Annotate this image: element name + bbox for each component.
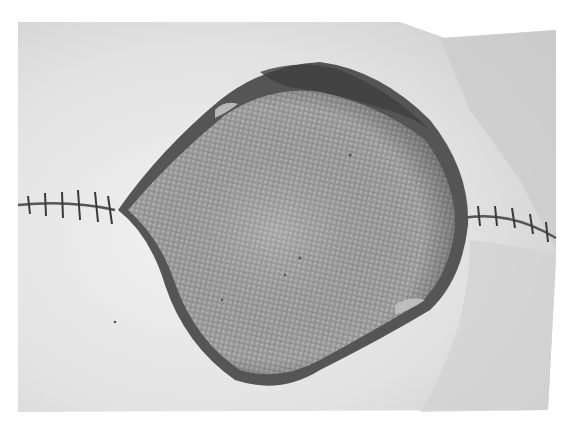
wound-photograph: [0, 0, 576, 434]
